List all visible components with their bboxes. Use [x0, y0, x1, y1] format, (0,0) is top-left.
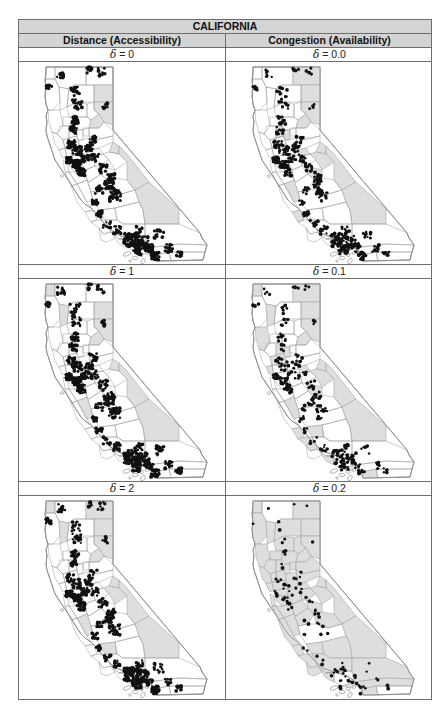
- county-modoc-east: [94, 302, 113, 319]
- delta-label-congestion-0: δ = 0.0: [226, 48, 433, 61]
- channel-island: [60, 392, 63, 395]
- california-map-distance-2: [19, 496, 226, 699]
- california-map-distance-0: [19, 62, 226, 264]
- map-row: [19, 62, 431, 265]
- delta-value: = 1: [119, 265, 134, 277]
- delta-symbol: δ: [313, 482, 319, 494]
- delta-value: = 0.2: [322, 482, 346, 494]
- delta-label-distance-0: δ = 0: [19, 48, 226, 61]
- county-modoc-east: [94, 519, 113, 536]
- california-map-congestion-2: [226, 496, 433, 699]
- channel-island: [140, 258, 146, 264]
- channel-island: [339, 473, 345, 476]
- california-county-map: [19, 62, 225, 264]
- california-county-map: [19, 496, 225, 698]
- delta-label-congestion-1: δ = 0.1: [226, 265, 433, 278]
- california-map-distance-1: [19, 279, 226, 481]
- county-sutter: [284, 564, 290, 574]
- delta-symbol: δ: [313, 265, 319, 277]
- channel-island: [330, 251, 339, 257]
- map-row: [19, 496, 431, 699]
- delta-label-row: δ = 2 δ = 0.2: [19, 482, 431, 496]
- channel-island: [140, 475, 146, 481]
- channel-island: [267, 609, 270, 612]
- delta-value: = 0.1: [322, 265, 346, 277]
- channel-island: [347, 258, 353, 264]
- channel-island: [339, 690, 345, 693]
- channel-island: [60, 609, 63, 612]
- county-delnorte: [46, 284, 55, 296]
- county-modoc-east: [301, 85, 320, 102]
- channel-island: [347, 692, 353, 698]
- county-modoc-east: [94, 85, 113, 102]
- state-outline: [252, 284, 414, 478]
- channel-island: [60, 175, 63, 178]
- channel-island: [123, 685, 132, 691]
- column-header-row: Distance (Accessibility) Congestion (Ava…: [19, 34, 431, 48]
- channel-island: [339, 256, 345, 259]
- delta-value: = 2: [119, 482, 134, 494]
- delta-symbol: δ: [110, 48, 116, 60]
- channel-island: [129, 477, 131, 479]
- channel-island: [140, 692, 146, 698]
- delta-value: = 0.0: [322, 48, 346, 60]
- delta-label-distance-1: δ = 1: [19, 265, 226, 278]
- channel-island: [352, 686, 355, 689]
- channel-island: [267, 392, 270, 395]
- channel-island: [336, 694, 338, 696]
- delta-value: = 0: [119, 48, 134, 60]
- channel-island: [132, 256, 138, 259]
- channel-island: [267, 175, 270, 178]
- channel-island: [123, 251, 132, 257]
- california-county-map: [226, 496, 432, 698]
- table-title: CALIFORNIA: [19, 20, 431, 34]
- channel-island: [336, 477, 338, 479]
- channel-island: [132, 473, 138, 476]
- california-county-map: [226, 279, 432, 481]
- delta-label-distance-2: δ = 2: [19, 482, 226, 495]
- delta-symbol: δ: [110, 265, 116, 277]
- california-map-congestion-1: [226, 279, 433, 481]
- county-delnorte: [253, 501, 262, 513]
- delta-label-row: δ = 0 δ = 0.0: [19, 48, 431, 62]
- county-delnorte: [253, 284, 262, 296]
- channel-island: [330, 685, 339, 691]
- delta-symbol: δ: [313, 48, 319, 60]
- california-map-congestion-0: [226, 62, 433, 264]
- county-sutter: [284, 347, 290, 357]
- county-modoc-east: [301, 302, 320, 319]
- channel-island: [330, 468, 339, 474]
- channel-island: [336, 260, 338, 262]
- figure-table: CALIFORNIA Distance (Accessibility) Cong…: [18, 19, 432, 700]
- county-delnorte: [46, 501, 55, 513]
- delta-label-row: δ = 1 δ = 0.1: [19, 265, 431, 279]
- channel-island: [129, 260, 131, 262]
- county-modoc-east: [301, 519, 320, 536]
- column-header-distance: Distance (Accessibility): [19, 34, 226, 47]
- county-sutter: [284, 130, 290, 140]
- column-header-congestion: Congestion (Availability): [226, 34, 433, 47]
- delta-symbol: δ: [110, 482, 116, 494]
- delta-label-congestion-2: δ = 0.2: [226, 482, 433, 495]
- county-yuba: [290, 562, 296, 570]
- california-county-map: [226, 62, 432, 264]
- county-modoc: [293, 501, 320, 519]
- channel-island: [129, 694, 131, 696]
- state-outline: [45, 501, 207, 695]
- channel-island: [123, 468, 132, 474]
- county-glenn: [270, 551, 282, 560]
- channel-island: [132, 690, 138, 693]
- channel-island: [347, 475, 353, 481]
- map-row: [19, 279, 431, 482]
- california-county-map: [19, 279, 225, 481]
